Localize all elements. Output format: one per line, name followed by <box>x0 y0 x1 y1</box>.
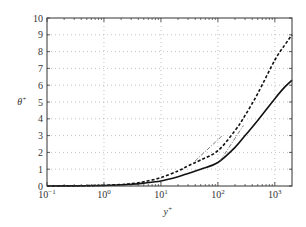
series-solid <box>47 80 292 186</box>
y-tick-label: 1 <box>38 164 43 175</box>
y-axis-label: θ+ <box>17 95 27 107</box>
y-tick-label: 7 <box>38 63 43 74</box>
x-tick-label: 102 <box>211 188 225 200</box>
x-tick-label: 101 <box>154 188 168 200</box>
x-tick-label: 100 <box>97 188 111 200</box>
y-tick-label: 2 <box>38 147 43 158</box>
x-tick-label: 103 <box>268 188 282 200</box>
y-tick-label: 4 <box>38 113 43 124</box>
x-tick-labels: 10−1100101102103 <box>38 188 282 200</box>
y-tick-label: 5 <box>38 97 43 108</box>
y-tick-label: 0 <box>38 181 43 192</box>
x-axis-label: y+ <box>162 205 172 217</box>
line-chart: 10−1100101102103 012345678910 y+ θ+ <box>0 0 306 227</box>
y-tick-label: 6 <box>38 80 43 91</box>
y-tick-label: 10 <box>33 13 43 24</box>
y-tick-labels: 012345678910 <box>33 13 43 192</box>
series-dashed <box>47 35 292 186</box>
data-series <box>47 35 292 186</box>
y-tick-label: 8 <box>38 46 43 57</box>
y-tick-label: 9 <box>38 29 43 40</box>
grid-lines <box>47 18 292 186</box>
y-tick-label: 3 <box>38 130 43 141</box>
